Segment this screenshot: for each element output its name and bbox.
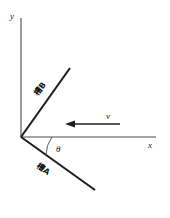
diagram-canvas: y x θ v 槽B 槽A [0, 0, 170, 218]
ray-a-label-group: 槽A [35, 160, 53, 177]
physics-diagram: y x θ v 槽B 槽A [0, 0, 170, 218]
velocity-arrowhead-icon [65, 121, 75, 128]
ray-b-label: 槽B [31, 80, 47, 97]
ray-b-line [21, 68, 70, 137]
x-axis-label: x [147, 140, 152, 150]
ray-b-label-group: 槽B [31, 80, 47, 97]
angle-arc [46, 137, 52, 155]
ray-a-label: 槽A [35, 160, 53, 177]
angle-theta-label: θ [56, 144, 61, 154]
y-axis-label: y [9, 11, 14, 21]
velocity-label: v [106, 111, 110, 121]
